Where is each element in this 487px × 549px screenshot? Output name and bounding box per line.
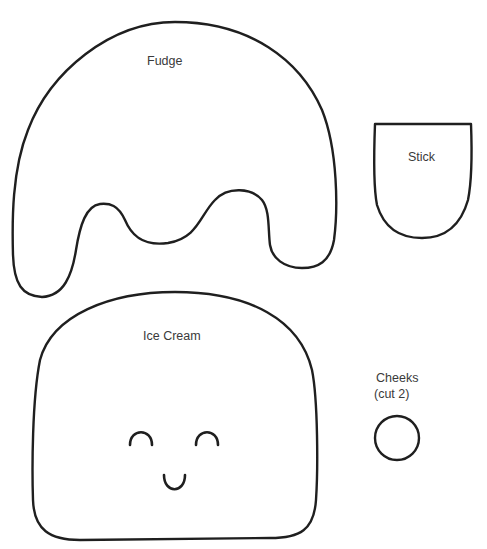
pattern-canvas: [0, 0, 487, 549]
stick-shape: [374, 124, 471, 238]
stick-label: Stick: [408, 150, 435, 165]
ice-cream-label: Ice Cream: [143, 329, 201, 344]
cheek-circle-shape: [375, 416, 419, 460]
fudge-label: Fudge: [147, 54, 182, 69]
cheeks-cut-count-label: (cut 2): [374, 387, 409, 402]
cheeks-label: Cheeks: [376, 371, 418, 386]
